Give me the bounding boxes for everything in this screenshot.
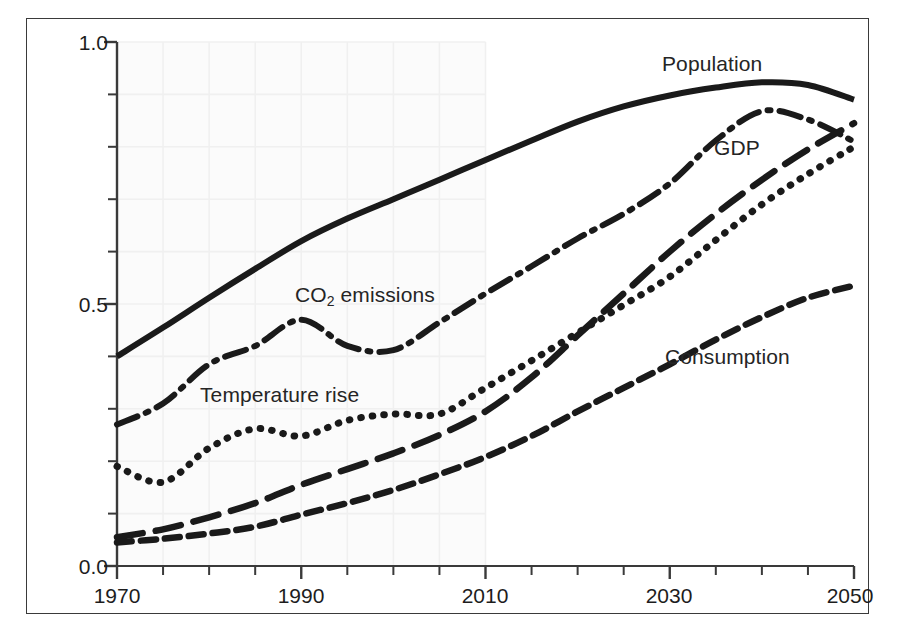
x-tick-label-2010: 2010 [440,584,530,608]
x-tick-label-2030: 2030 [624,584,714,608]
y-tick-label-0: 0.0 [48,555,108,579]
x-tick-label-1990: 1990 [256,584,346,608]
x-tick-label-2050: 2050 [805,584,895,608]
y-tick-label-0.5: 0.5 [48,293,108,317]
figure-container: 1.0 0.5 0.0 1970 1990 2010 2030 2050 Pop… [0,0,897,642]
series-label-population: Population [662,52,762,76]
co2-label-suffix: emissions [335,283,435,306]
chart-plot-area [0,0,897,642]
co2-label-prefix: CO [295,283,327,306]
series-label-consumption: Consumption [665,345,790,369]
series-label-temperature-rise: Temperature rise [200,383,359,407]
x-tick-label-1970: 1970 [72,584,162,608]
series-label-co2-emissions: CO2 emissions [295,283,435,307]
y-tick-label-1: 1.0 [48,31,108,55]
co2-label-subscript: 2 [327,293,335,309]
series-label-gdp: GDP [714,136,760,160]
